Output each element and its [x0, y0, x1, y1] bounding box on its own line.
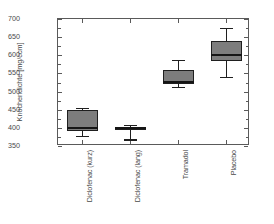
median-line	[163, 81, 194, 83]
y-minor-tick-mark-right	[246, 119, 249, 120]
y-minor-tick-mark	[58, 46, 61, 47]
y-minor-tick-mark	[58, 137, 61, 138]
figure-canvas: Knochendichte [mg/ccm] 35040045050055060…	[0, 0, 274, 224]
x-category-label-3: Tramadol	[181, 150, 191, 224]
y-minor-tick-mark	[58, 28, 61, 29]
y-tick-mark	[58, 73, 62, 74]
whisker-cap-upper	[220, 28, 233, 29]
y-tick-label: 450	[0, 105, 20, 112]
y-minor-tick-mark	[58, 83, 61, 84]
whisker-cap-lower	[76, 136, 89, 137]
y-tick-mark	[58, 37, 62, 38]
x-category-label-1: Diclofenac (kurz)	[85, 150, 95, 224]
box-plot-2[interactable]	[115, 19, 146, 146]
whisker-stem-upper	[178, 60, 179, 70]
y-tick-mark-right	[244, 55, 248, 56]
whisker-cap-upper	[172, 60, 185, 61]
whisker-cap-lower	[124, 139, 137, 140]
x-category-label-2: Diclofenac (lang)	[133, 150, 143, 224]
y-tick-label: 550	[0, 69, 20, 76]
median-line	[67, 127, 98, 129]
whisker-stem-lower	[226, 61, 227, 77]
y-tick-mark	[58, 92, 62, 93]
whisker-stem-lower	[130, 130, 131, 140]
y-tick-mark-right	[244, 92, 248, 93]
y-tick-mark	[58, 146, 62, 147]
box-plot-1[interactable]	[67, 19, 98, 146]
whisker-stem-upper	[226, 28, 227, 41]
plot-area	[57, 18, 249, 145]
y-minor-tick-mark-right	[246, 83, 249, 84]
whisker-cap-lower	[220, 77, 233, 78]
y-tick-label: 600	[0, 51, 20, 58]
y-tick-label: 350	[0, 142, 20, 149]
y-minor-tick-mark-right	[246, 137, 249, 138]
y-minor-tick-mark	[58, 101, 61, 102]
y-tick-mark-right	[244, 110, 248, 111]
y-minor-tick-mark-right	[246, 101, 249, 102]
box-plot-4[interactable]	[211, 19, 242, 146]
y-tick-mark	[58, 128, 62, 129]
box-body	[211, 41, 242, 61]
y-tick-label: 650	[0, 33, 20, 40]
box-plot-3[interactable]	[163, 19, 194, 146]
y-tick-mark-right	[244, 73, 248, 74]
y-minor-tick-mark	[58, 119, 61, 120]
y-tick-label: 400	[0, 123, 20, 130]
y-tick-mark-right	[244, 128, 248, 129]
y-tick-mark-right	[244, 37, 248, 38]
y-tick-mark	[58, 19, 62, 20]
y-minor-tick-mark-right	[246, 46, 249, 47]
median-line	[211, 54, 242, 56]
x-category-label-4: Placebo	[229, 150, 239, 224]
y-minor-tick-mark	[58, 64, 61, 65]
whisker-cap-upper	[76, 108, 89, 109]
y-tick-mark-right	[244, 146, 248, 147]
y-minor-tick-mark-right	[246, 64, 249, 65]
y-tick-mark-right	[244, 19, 248, 20]
y-minor-tick-mark-right	[246, 28, 249, 29]
y-tick-mark	[58, 55, 62, 56]
whisker-cap-lower	[172, 87, 185, 88]
y-tick-label: 700	[0, 15, 20, 22]
y-tick-label: 500	[0, 87, 20, 94]
median-line	[115, 127, 146, 129]
y-tick-mark	[58, 110, 62, 111]
